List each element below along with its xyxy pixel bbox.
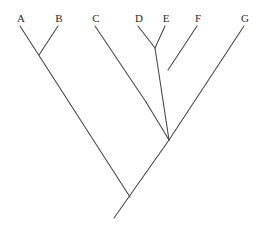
- branch-CDEFG: [114, 140, 169, 218]
- branch-A: [20, 26, 130, 197]
- branch-DE: [155, 48, 169, 140]
- branch-C: [95, 26, 146, 102]
- taxon-label-b: B: [52, 13, 66, 24]
- branch-B: [39, 26, 58, 55]
- branch-F: [168, 26, 197, 70]
- branch-E: [155, 26, 165, 48]
- taxon-label-a: A: [14, 13, 28, 24]
- taxon-label-g: G: [238, 13, 252, 24]
- taxon-label-c: C: [89, 13, 103, 24]
- branch-CDEF: [146, 102, 169, 140]
- taxon-label-d: D: [132, 13, 146, 24]
- cladogram-branches: [0, 0, 264, 238]
- branch-D: [138, 26, 155, 48]
- taxon-label-e: E: [159, 13, 173, 24]
- cladogram-figure: A B C D E F G: [0, 0, 264, 238]
- branch-G: [169, 26, 244, 140]
- taxon-label-f: F: [191, 13, 205, 24]
